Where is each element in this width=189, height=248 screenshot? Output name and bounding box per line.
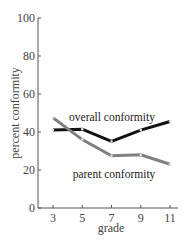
y-tick-label: 0 <box>29 201 35 215</box>
x-tick-label: 9 <box>138 211 144 225</box>
y-tick-label: 60 <box>23 87 35 101</box>
y-axis-title: percent conformity <box>8 67 22 159</box>
x-axis-title: grade <box>98 221 125 235</box>
x-tick-label: 11 <box>164 211 176 225</box>
y-tick-label: 40 <box>23 125 35 139</box>
data-point <box>110 154 113 157</box>
line-chart: 020406080100 357911 percent conformity g… <box>0 0 189 248</box>
data-point <box>139 154 142 157</box>
x-tick-label: 3 <box>50 211 56 225</box>
data-point <box>139 129 142 132</box>
data-point <box>81 138 84 141</box>
data-point <box>169 120 172 123</box>
y-tick-label: 20 <box>23 163 35 177</box>
y-tick-label: 100 <box>17 11 35 25</box>
data-point <box>52 116 55 119</box>
data-point <box>110 140 113 143</box>
x-tick-label: 5 <box>79 211 85 225</box>
data-point <box>52 129 55 132</box>
series-label-parent: parent conformity <box>73 168 156 181</box>
series-label-overall: overall conformity <box>69 111 155 124</box>
y-tick-label: 80 <box>23 49 35 63</box>
data-point <box>81 128 84 131</box>
data-point <box>169 163 172 166</box>
